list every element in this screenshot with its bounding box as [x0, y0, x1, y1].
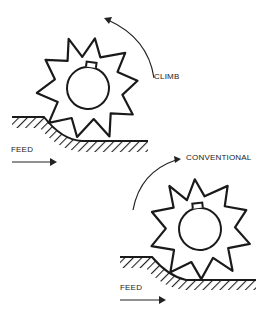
label-feed-top: FEED: [11, 145, 33, 154]
label-climb: CLIMB: [154, 72, 179, 81]
arrowhead-climb: [104, 17, 112, 24]
feed-arrowhead-top: [50, 158, 57, 166]
label-feed-bottom: FEED: [120, 283, 142, 292]
label-conventional: CONVENTIONAL: [186, 153, 252, 162]
feed-arrowhead-bottom: [159, 296, 166, 304]
arrowhead-conventional: [174, 156, 181, 163]
